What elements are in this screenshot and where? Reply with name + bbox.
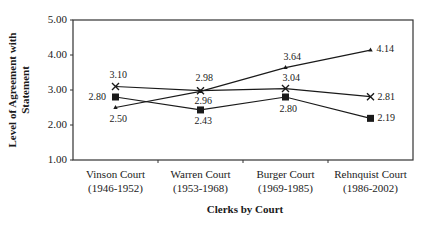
data-label: 4.14 bbox=[377, 43, 395, 54]
series-line bbox=[116, 50, 371, 107]
data-label: 2.50 bbox=[110, 113, 128, 124]
square-marker-icon bbox=[367, 115, 374, 122]
data-label: 2.98 bbox=[196, 72, 214, 83]
data-label: 3.04 bbox=[283, 72, 301, 83]
square-marker-icon bbox=[282, 94, 289, 101]
y-axis-title-line: Statement bbox=[19, 20, 32, 160]
data-label: 2.81 bbox=[378, 91, 396, 102]
data-label: 2.96 bbox=[195, 95, 213, 106]
data-label: 2.19 bbox=[378, 112, 396, 123]
y-axis-title: Level of Agreement withStatement bbox=[6, 20, 34, 160]
square-marker-icon bbox=[197, 106, 204, 113]
data-label: 3.10 bbox=[110, 69, 128, 80]
x-axis-title: Clerks by Court bbox=[195, 203, 295, 215]
x-category-label: Rehnquist Court(1986-2002) bbox=[321, 167, 421, 195]
series-line bbox=[116, 87, 371, 97]
line-chart: 5.004.003.002.001.00 Level of Agreement … bbox=[0, 0, 431, 226]
data-label: 2.80 bbox=[89, 91, 107, 102]
data-label: 2.80 bbox=[280, 103, 298, 114]
data-label: 2.43 bbox=[195, 115, 213, 126]
triangle-marker-icon bbox=[368, 48, 372, 52]
square-marker-icon bbox=[112, 94, 119, 101]
y-axis-title-line: Level of Agreement with bbox=[6, 20, 19, 160]
data-label: 3.64 bbox=[284, 51, 302, 62]
